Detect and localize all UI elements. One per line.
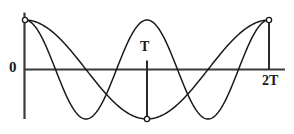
double-period-label: 2T [262,74,278,88]
mid-point-marker [144,116,149,121]
start-point-marker [22,17,27,22]
period-label: T [140,40,149,54]
origin-label: 0 [9,60,17,75]
waveform-figure: 0 T 2T [0,0,294,134]
waveform-plot [0,0,294,134]
end-point-marker [266,17,271,22]
